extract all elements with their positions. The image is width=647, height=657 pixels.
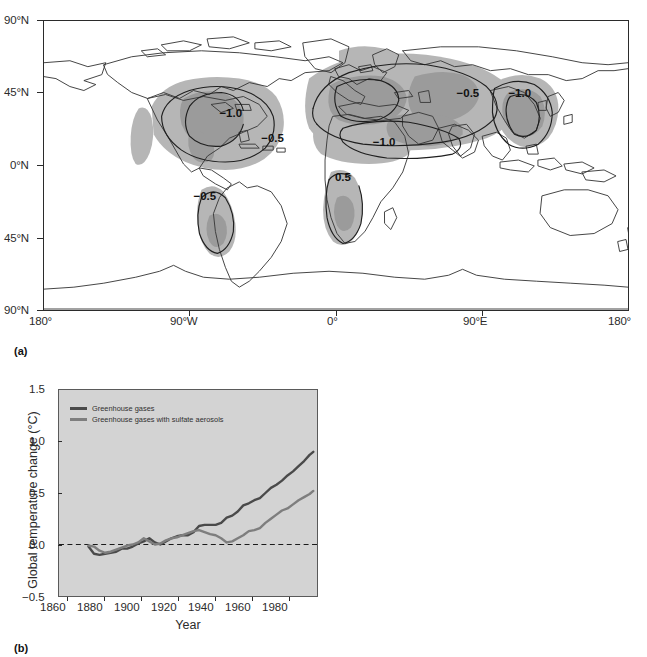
contour-label: −1.0: [508, 87, 531, 99]
map-ytick-2: [37, 165, 43, 166]
map-xtick-1: [189, 311, 190, 316]
map-ytick-label-3: 45°N: [4, 232, 29, 244]
panel-label-a: (a): [14, 345, 27, 357]
chart-xtick-label-3: 1920: [151, 601, 177, 613]
chart-xtick-4: [215, 597, 216, 601]
contour-label: −1.0: [373, 136, 396, 148]
chart-xtick-0: [67, 597, 68, 601]
map-xtick-label-3: 90°E: [463, 315, 487, 327]
chart-ytick-1: [58, 545, 62, 546]
map-xtick-3: [482, 311, 483, 316]
map-xtick-label-1: 90°W: [170, 315, 197, 327]
contour-label: −0.5: [193, 190, 216, 202]
map-ytick-4: [37, 310, 43, 311]
chart-xtick-label-0: 1860: [40, 601, 66, 613]
panel-b-chart: Greenhouse gases Greenhouse gases with s…: [0, 360, 647, 657]
series-line-greenhouse-gases: [88, 452, 313, 555]
chart-xtick-label-4: 1940: [188, 601, 214, 613]
legend-item-1: Greenhouse gases with sulfate aerosols: [70, 415, 223, 424]
contour-label: −0.5: [457, 87, 480, 99]
chart-xtick-label-5: 1960: [225, 601, 251, 613]
panel-a-map: −1.0 −0.5 −0.5 −1.0 0.5 −0.5 −1.0 90°N 4…: [0, 0, 647, 360]
legend-swatch-sulfate-aerosols: [70, 418, 87, 421]
chart-ytick-3: [58, 441, 62, 442]
legend-item-0: Greenhouse gases: [70, 404, 154, 413]
map-ytick-label-1: 45°N: [4, 86, 29, 98]
map-plot-area: −1.0 −0.5 −0.5 −1.0 0.5 −0.5 −1.0: [43, 20, 629, 311]
world-map-svg: −1.0 −0.5 −0.5 −1.0 0.5 −0.5 −1.0: [44, 21, 628, 310]
chart-xtick-label-2: 1900: [114, 601, 140, 613]
contour-label: −0.5: [261, 132, 284, 144]
panel-label-b: (b): [14, 642, 28, 654]
chart-ytick-label-4: 1.5: [29, 383, 45, 395]
map-xtick-label-4: 180°: [608, 315, 631, 327]
chart-xtick-6: [289, 597, 290, 601]
map-xtick-2: [336, 311, 337, 316]
chart-ytick-2: [58, 493, 62, 494]
chart-xtick-label-6: 1980: [262, 601, 288, 613]
map-ytick-3: [37, 238, 43, 239]
legend-swatch-greenhouse-gases: [70, 407, 87, 410]
chart-xtick-1: [104, 597, 105, 601]
contour-label: −1.0: [219, 107, 242, 119]
map-ytick-1: [37, 92, 43, 93]
chart-x-axis-label: Year: [58, 618, 318, 632]
map-ytick-label-0: 90°N: [4, 14, 29, 26]
contour-label: 0.5: [335, 171, 352, 183]
chart-xtick-5: [252, 597, 253, 601]
chart-xtick-3: [178, 597, 179, 601]
legend-label-0: Greenhouse gases: [92, 404, 154, 413]
map-xtick-label-0: 180°: [29, 315, 52, 327]
chart-y-axis-label: Global temperature change (°C): [26, 395, 40, 605]
map-ytick-label-4: 90°N: [4, 304, 29, 316]
map-xtick-label-2: 0°: [327, 315, 338, 327]
chart-xtick-2: [141, 597, 142, 601]
map-ytick-0: [37, 20, 43, 21]
map-ytick-label-2: 0°N: [10, 159, 29, 171]
chart-xtick-label-1: 1880: [77, 601, 103, 613]
legend-label-1: Greenhouse gases with sulfate aerosols: [92, 415, 223, 424]
series-line-greenhouse-gases-with-sulfate-aerosols: [88, 491, 313, 553]
